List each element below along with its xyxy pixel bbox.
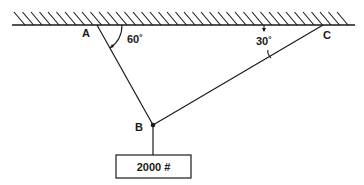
label-a: A: [82, 27, 90, 39]
cable-ab: [97, 25, 153, 125]
label-b: B: [135, 121, 143, 133]
angle-label-60: 60˚: [127, 33, 143, 45]
load-label: 2000 #: [137, 161, 171, 173]
joint-b-dot: [151, 123, 156, 128]
ceiling-hatching: [14, 12, 348, 25]
cable-diagram: A C B 60˚ 30˚ 2000 #: [0, 0, 364, 185]
angle-arrow-c-top: [262, 28, 266, 32]
angle-label-30: 30˚: [256, 35, 272, 47]
label-c: C: [323, 29, 331, 41]
cable-cb: [153, 25, 323, 125]
